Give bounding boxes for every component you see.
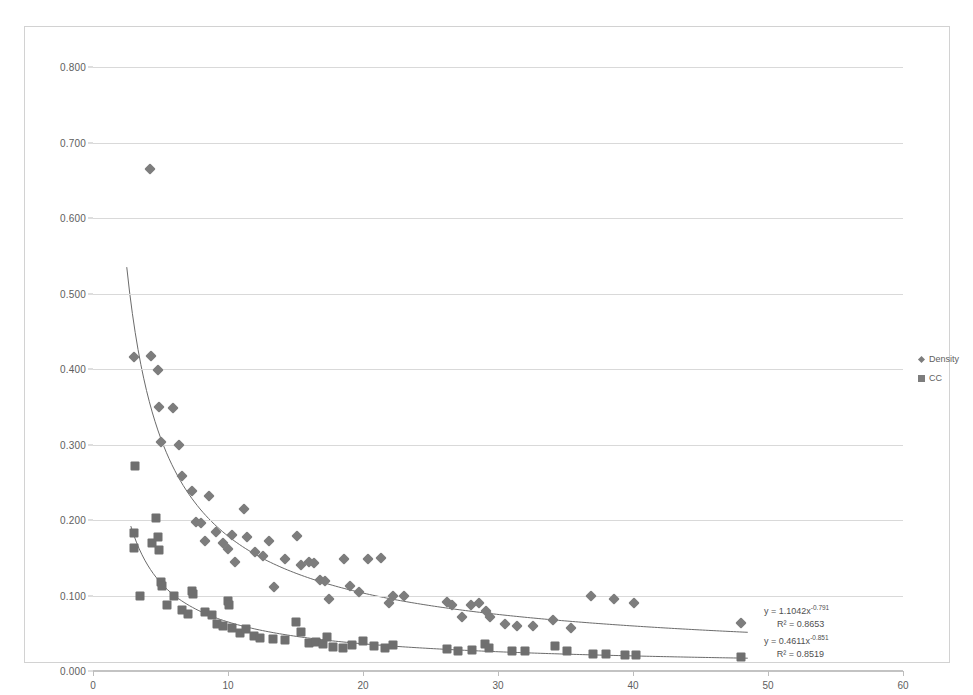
- data-point-density: [263, 535, 274, 546]
- data-point-density: [153, 401, 164, 412]
- data-point-cc: [129, 543, 138, 552]
- y-gridline: [93, 520, 903, 521]
- data-point-density: [186, 485, 197, 496]
- plot-area: 0.0000.1000.2000.3000.4000.5000.6000.700…: [93, 67, 903, 671]
- y-axis-tick-label: 0.400: [60, 364, 86, 375]
- y-gridline: [93, 596, 903, 597]
- data-point-density: [585, 590, 596, 601]
- x-tick-mark: [903, 671, 904, 676]
- density-r2-text: R² = 0.8653: [764, 618, 829, 631]
- data-point-density: [268, 582, 279, 593]
- data-point-density: [499, 619, 510, 630]
- data-point-density: [735, 617, 746, 628]
- data-point-density: [279, 554, 290, 565]
- data-point-cc: [737, 653, 746, 662]
- y-axis-tick-label: 0.300: [60, 439, 86, 450]
- data-point-cc: [136, 591, 145, 600]
- data-point-cc: [338, 643, 347, 652]
- cc-r2-text: R² = 0.8519: [764, 648, 829, 661]
- cc-equation-exponent: -0.851: [810, 634, 828, 641]
- diamond-marker-icon: [918, 356, 925, 363]
- legend-item-density[interactable]: Density: [918, 355, 959, 365]
- data-point-cc: [280, 636, 289, 645]
- data-point-density: [144, 163, 155, 174]
- data-point-cc: [620, 651, 629, 660]
- y-gridline: [93, 369, 903, 370]
- x-axis-tick-label: 30: [492, 680, 503, 691]
- density-equation-text: y = 1.1042x-0.791: [764, 603, 829, 618]
- cc-equation-text: y = 0.4611x-0.851: [764, 633, 829, 648]
- data-point-cc: [218, 622, 227, 631]
- data-point-cc: [562, 647, 571, 656]
- data-point-density: [375, 552, 386, 563]
- data-point-density: [338, 553, 349, 564]
- data-point-density: [239, 503, 250, 514]
- x-axis-tick-label: 20: [357, 680, 368, 691]
- data-point-cc: [207, 611, 216, 620]
- data-point-cc: [157, 582, 166, 591]
- data-point-cc: [521, 646, 530, 655]
- data-point-density: [565, 622, 576, 633]
- data-point-density: [145, 350, 156, 361]
- data-point-cc: [322, 633, 331, 642]
- data-point-cc: [188, 589, 197, 598]
- y-gridline: [93, 294, 903, 295]
- data-point-cc: [588, 650, 597, 659]
- data-point-density: [226, 529, 237, 540]
- data-point-density: [155, 437, 166, 448]
- y-tick-mark: [88, 520, 93, 521]
- data-point-density: [210, 526, 221, 537]
- data-point-density: [176, 471, 187, 482]
- data-point-density: [527, 620, 538, 631]
- data-point-cc: [225, 600, 234, 609]
- y-tick-mark: [88, 595, 93, 596]
- data-point-density: [456, 611, 467, 622]
- data-point-cc: [268, 635, 277, 644]
- data-point-cc: [152, 513, 161, 522]
- data-point-cc: [291, 617, 300, 626]
- x-axis-tick-label: 40: [627, 680, 638, 691]
- x-tick-mark: [228, 671, 229, 676]
- data-point-cc: [484, 644, 493, 653]
- x-axis-tick-label: 10: [222, 680, 233, 691]
- y-tick-mark: [88, 67, 93, 68]
- data-point-cc: [468, 645, 477, 654]
- data-point-density: [548, 614, 559, 625]
- trendline-density: [127, 267, 748, 632]
- y-tick-mark: [88, 293, 93, 294]
- data-point-cc: [153, 532, 162, 541]
- y-axis-tick-label: 0.500: [60, 288, 86, 299]
- y-axis-tick-label: 0.700: [60, 137, 86, 148]
- data-point-density: [167, 402, 178, 413]
- x-axis-tick-label: 60: [897, 680, 908, 691]
- data-point-cc: [256, 633, 265, 642]
- y-tick-mark: [88, 444, 93, 445]
- chart-legend: DensityCC: [918, 355, 959, 393]
- data-point-cc: [388, 640, 397, 649]
- data-point-density: [128, 351, 139, 362]
- cc-trendline-annotation: y = 0.4611x-0.851 R² = 0.8519: [764, 633, 829, 661]
- y-axis-tick-label: 0.100: [60, 590, 86, 601]
- y-tick-mark: [88, 218, 93, 219]
- data-point-density: [257, 551, 268, 562]
- scatter-chart: 0.0000.1000.2000.3000.4000.5000.6000.700…: [0, 0, 973, 695]
- y-axis-tick-label: 0.600: [60, 213, 86, 224]
- data-point-cc: [453, 647, 462, 656]
- data-point-cc: [359, 636, 368, 645]
- y-axis-tick-label: 0.000: [60, 666, 86, 677]
- y-gridline: [93, 218, 903, 219]
- legend-item-cc[interactable]: CC: [918, 374, 959, 384]
- density-equation-exponent: -0.791: [811, 604, 829, 611]
- data-point-density: [309, 557, 320, 568]
- data-point-density: [152, 364, 163, 375]
- data-point-density: [511, 620, 522, 631]
- square-marker-icon: [918, 375, 925, 382]
- y-tick-mark: [88, 142, 93, 143]
- y-tick-mark: [88, 369, 93, 370]
- data-point-cc: [329, 642, 338, 651]
- x-tick-mark: [93, 671, 94, 676]
- data-point-cc: [442, 645, 451, 654]
- data-point-cc: [163, 601, 172, 610]
- data-point-cc: [183, 609, 192, 618]
- data-point-density: [320, 575, 331, 586]
